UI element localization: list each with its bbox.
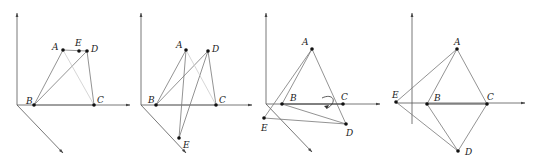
segments [264, 49, 346, 124]
panel-2: A D B C E [141, 13, 252, 153]
points [154, 48, 218, 140]
label-B: B [433, 93, 441, 103]
segments [34, 50, 94, 105]
geometry-figure: A E D B C A D B C E [0, 0, 537, 164]
label-D: D [211, 44, 219, 54]
label-C: C [341, 92, 348, 102]
axes [396, 13, 525, 124]
label-A: A [51, 42, 59, 52]
panel-4: A B C D E [391, 13, 525, 157]
panel-1: A E D B C [17, 13, 130, 153]
points [394, 47, 489, 153]
label-B: B [289, 93, 297, 103]
label-D: D [90, 44, 98, 54]
label-B: B [147, 95, 155, 105]
segments [156, 50, 216, 138]
label-C: C [219, 95, 226, 105]
label-E: E [182, 140, 190, 150]
points [32, 48, 96, 107]
label-A: A [453, 37, 461, 47]
segments [396, 49, 487, 151]
label-C: C [487, 92, 494, 102]
label-A: A [175, 40, 183, 50]
label-E: E [391, 90, 399, 100]
axes [266, 13, 380, 152]
label-B: B [25, 96, 33, 106]
label-E: E [74, 38, 82, 48]
label-E: E [260, 123, 268, 133]
rotation-arrowhead-icon [324, 105, 329, 109]
label-A: A [301, 37, 309, 47]
label-D: D [345, 128, 353, 138]
panel-3: A B C D E [260, 13, 380, 152]
label-D: D [464, 147, 472, 157]
axes [17, 13, 130, 153]
label-C: C [97, 95, 104, 105]
axes [141, 13, 252, 153]
